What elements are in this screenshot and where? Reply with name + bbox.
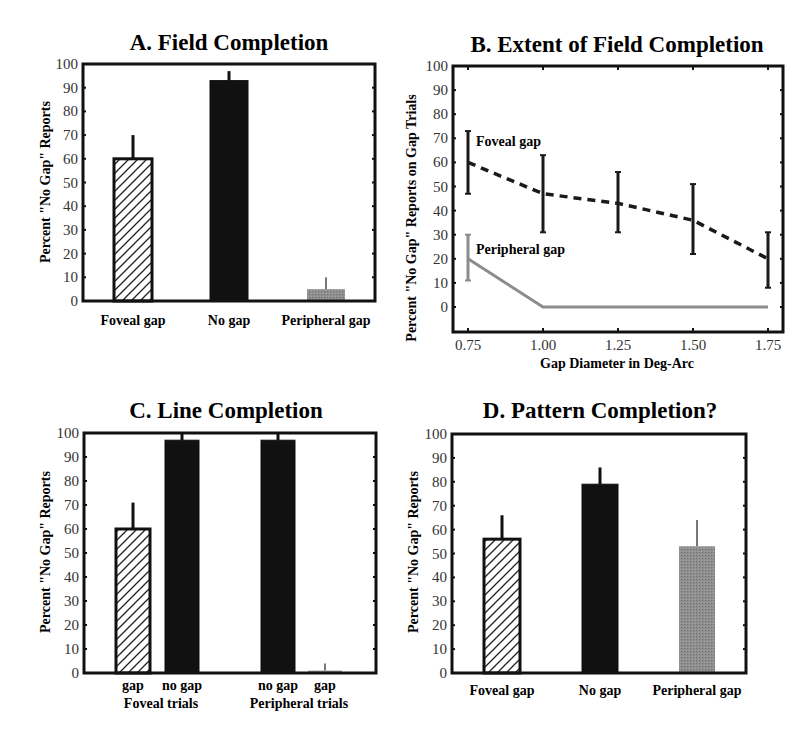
x-tick-label: 1.75 — [755, 337, 781, 353]
panel-b-ylabel: Percent "No Gap" Reports on Gap Trials — [404, 94, 419, 342]
bar-peripheral-gap — [307, 289, 345, 301]
y-tick-label: 20 — [433, 251, 448, 267]
y-tick-label: 60 — [64, 521, 79, 537]
panel-a-bars — [114, 71, 345, 301]
bar-no-gap — [210, 81, 248, 301]
y-tick-label: 90 — [63, 80, 78, 96]
panel-b-annotation-foveal: Foveal gap — [476, 134, 541, 149]
x-tick-label: 1.00 — [530, 337, 556, 353]
y-tick-label: 40 — [432, 569, 447, 585]
y-tick-label: 0 — [71, 293, 79, 309]
bar-gap — [116, 529, 150, 673]
figure-canvas: A. Field Completion Percent "No Gap" Rep… — [0, 0, 800, 739]
panel-c: C. Line Completion Percent "No Gap" Repo… — [38, 398, 376, 711]
panel-d-x-categories: Foveal gapNo gapPeripheral gap — [470, 683, 742, 698]
bar-no-gap — [261, 440, 295, 673]
panel-b-xlabel: Gap Diameter in Deg-Arc — [540, 356, 694, 371]
y-tick-label: 20 — [432, 617, 447, 633]
panel-a-title: A. Field Completion — [130, 30, 329, 55]
panel-c-bars — [116, 433, 342, 673]
y-tick-label: 80 — [64, 473, 79, 489]
panel-d-title: D. Pattern Completion? — [483, 398, 717, 423]
y-tick-label: 60 — [433, 154, 448, 170]
panel-c-y-axis: 0102030405060708090100 — [57, 425, 377, 681]
x-category-label: gap — [122, 678, 144, 693]
y-tick-label: 70 — [432, 498, 447, 514]
x-tick-label: 1.25 — [605, 337, 631, 353]
y-tick-label: 40 — [433, 203, 448, 219]
x-category-label: Foveal gap — [470, 683, 535, 698]
x-category-label: Peripheral gap — [281, 313, 370, 328]
y-tick-label: 100 — [425, 426, 448, 442]
bar-no-gap — [165, 440, 199, 673]
panel-a-x-categories: Foveal gapNo gapPeripheral gap — [101, 313, 371, 328]
panel-b-annotation-peripheral: Peripheral gap — [476, 242, 565, 257]
y-tick-label: 0 — [440, 665, 448, 681]
panel-a: A. Field Completion Percent "No Gap" Rep… — [38, 30, 375, 328]
x-category-label: No gap — [208, 313, 251, 328]
y-tick-label: 20 — [63, 246, 78, 262]
y-tick-label: 50 — [432, 546, 447, 562]
y-tick-label: 100 — [56, 56, 79, 72]
panel-b-y-axis: 0102030405060708090100 — [426, 58, 784, 315]
y-tick-label: 40 — [63, 198, 78, 214]
y-tick-label: 60 — [432, 522, 447, 538]
panel-d-bars — [484, 467, 715, 673]
panel-a-ylabel: Percent "No Gap" Reports — [38, 101, 53, 263]
bar-no-gap — [582, 484, 618, 673]
y-tick-label: 70 — [433, 130, 448, 146]
y-tick-label: 90 — [433, 82, 448, 98]
y-tick-label: 30 — [63, 222, 78, 238]
x-category-label: no gap — [162, 678, 202, 693]
y-tick-label: 30 — [432, 593, 447, 609]
y-tick-label: 80 — [432, 474, 447, 490]
x-category-label: Peripheral gap — [652, 683, 741, 698]
y-tick-label: 60 — [63, 151, 78, 167]
y-tick-label: 50 — [433, 179, 448, 195]
panel-b-series — [465, 131, 771, 307]
panel-b-title: B. Extent of Field Completion — [470, 32, 763, 57]
panel-c-group-peripheral: Peripheral trials — [250, 696, 349, 711]
x-tick-label: 0.75 — [455, 337, 481, 353]
y-tick-label: 100 — [426, 58, 449, 74]
x-category-label: No gap — [579, 683, 622, 698]
panel-d-ylabel: Percent "No Gap" Reports — [406, 471, 421, 633]
y-tick-label: 20 — [64, 617, 79, 633]
y-tick-label: 0 — [72, 665, 80, 681]
y-tick-label: 10 — [63, 269, 78, 285]
y-tick-label: 80 — [433, 106, 448, 122]
y-tick-label: 80 — [63, 103, 78, 119]
bar-foveal-gap — [114, 159, 152, 301]
y-tick-label: 10 — [64, 641, 79, 657]
bar-foveal-gap — [484, 539, 520, 673]
panel-c-x-categories: gapno gapno gapgap — [122, 678, 336, 693]
y-tick-label: 90 — [432, 450, 447, 466]
x-category-label: no gap — [258, 678, 298, 693]
x-category-label: gap — [314, 678, 336, 693]
bar-peripheral-gap — [679, 546, 715, 673]
y-tick-label: 50 — [63, 175, 78, 191]
y-tick-label: 10 — [432, 641, 447, 657]
x-tick-label: 1.50 — [680, 337, 706, 353]
panel-c-ylabel: Percent "No Gap" Reports — [38, 471, 53, 633]
y-tick-label: 30 — [433, 227, 448, 243]
peripheral-gap-line — [468, 259, 768, 307]
y-tick-label: 0 — [441, 299, 449, 315]
y-tick-label: 70 — [63, 127, 78, 143]
y-tick-label: 40 — [64, 569, 79, 585]
y-tick-label: 100 — [57, 425, 80, 441]
y-tick-label: 30 — [64, 593, 79, 609]
y-tick-label: 90 — [64, 449, 79, 465]
panel-b: B. Extent of Field Completion Percent "N… — [404, 32, 783, 371]
panel-c-group-foveal: Foveal trials — [124, 696, 199, 711]
x-category-label: Foveal gap — [101, 313, 166, 328]
y-tick-label: 10 — [433, 275, 448, 291]
y-tick-label: 50 — [64, 545, 79, 561]
panel-c-title: C. Line Completion — [129, 398, 323, 423]
y-tick-label: 70 — [64, 497, 79, 513]
panel-d: D. Pattern Completion? Percent "No Gap" … — [406, 398, 746, 698]
